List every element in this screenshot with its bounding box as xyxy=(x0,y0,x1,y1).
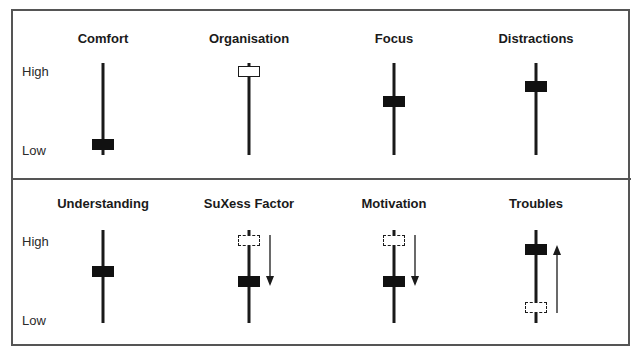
slider-title-troubles: Troubles xyxy=(509,196,563,211)
arrow-down-icon xyxy=(264,235,276,288)
slider-title-organisation: Organisation xyxy=(209,31,289,46)
arrow-down-icon xyxy=(409,235,421,288)
slider-knob-suxess-factor[interactable] xyxy=(238,276,260,287)
slider-title-understanding: Understanding xyxy=(57,196,149,211)
slider-title-motivation: Motivation xyxy=(362,196,427,211)
slider-track-distractions[interactable] xyxy=(535,63,538,155)
axis-low-label-top: Low xyxy=(22,143,46,158)
slider-knob-motivation[interactable] xyxy=(383,276,405,287)
slider-knob-focus[interactable] xyxy=(383,96,405,107)
slider-knob-organisation[interactable] xyxy=(238,66,260,77)
arrow-up-icon xyxy=(551,245,563,315)
slider-previous-position-suxess-factor xyxy=(238,235,260,246)
slider-title-comfort: Comfort xyxy=(78,31,129,46)
panel-divider xyxy=(11,178,631,180)
slider-knob-troubles[interactable] xyxy=(525,244,547,255)
slider-title-distractions: Distractions xyxy=(498,31,573,46)
slider-title-suxess-factor: SuXess Factor xyxy=(204,196,294,211)
slider-title-focus: Focus xyxy=(375,31,413,46)
axis-high-label-bottom: High xyxy=(22,234,49,249)
slider-track-focus[interactable] xyxy=(393,63,396,155)
slider-previous-position-troubles xyxy=(525,302,547,313)
slider-previous-position-motivation xyxy=(383,235,405,246)
slider-knob-distractions[interactable] xyxy=(525,81,547,92)
axis-low-label-bottom: Low xyxy=(22,313,46,328)
axis-high-label-top: High xyxy=(22,64,49,79)
slider-knob-understanding[interactable] xyxy=(92,266,114,277)
slider-knob-comfort[interactable] xyxy=(92,139,114,150)
